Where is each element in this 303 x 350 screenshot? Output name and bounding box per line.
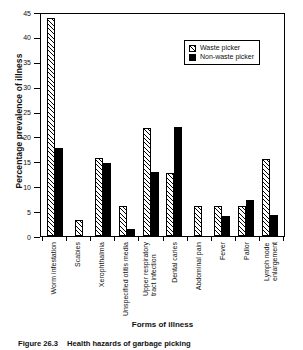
bar-waste-picker	[75, 220, 83, 236]
y-axis-tick-label: 35	[0, 59, 31, 66]
x-axis-title: Forms of illness	[40, 320, 285, 329]
legend-entry-waste-picker: Waste picker	[189, 44, 254, 52]
figure-container: Percentage prevalence of illness Worm in…	[0, 0, 303, 350]
x-tick-label: Fever	[211, 242, 235, 322]
x-axis-tick	[283, 237, 284, 241]
legend-swatch-waste-picker	[189, 45, 196, 52]
bar-non-waste-picker	[151, 172, 159, 236]
bar-non-waste-picker	[222, 216, 230, 236]
bar-group	[139, 14, 163, 236]
y-axis-tick-label: 20	[0, 134, 31, 141]
y-axis-tick	[34, 137, 40, 138]
y-axis-tick-label: 30	[0, 84, 31, 91]
chart-legend: Waste picker Non-waste picker	[184, 40, 260, 65]
x-tick-label: Upper respiratory tract infection	[138, 242, 162, 322]
x-tick-labels: Worm infestationScabiesXerophthalmiaUnsp…	[40, 242, 285, 322]
bar-group	[258, 14, 282, 236]
bar-waste-picker	[143, 128, 151, 237]
legend-swatch-non-waste-picker	[189, 54, 196, 61]
y-axis-tick-label: 15	[0, 159, 31, 166]
x-tick-label: Abdominal pain	[187, 242, 211, 322]
x-axis-tick	[259, 237, 260, 241]
bar-non-waste-picker	[103, 163, 111, 236]
y-axis-title: Percentage prevalence of illness	[14, 11, 24, 231]
bar-non-waste-picker	[270, 215, 278, 236]
bar-waste-picker	[262, 159, 270, 236]
y-axis-tick	[34, 88, 40, 89]
x-axis-tick	[211, 237, 212, 241]
bar-waste-picker	[47, 18, 55, 236]
y-axis-tick	[34, 63, 40, 64]
bar-waste-picker	[119, 206, 127, 236]
bar-non-waste-picker	[174, 127, 182, 236]
y-axis-tick	[34, 237, 40, 238]
y-axis-tick	[34, 38, 40, 39]
x-axis-tick	[235, 237, 236, 241]
x-tick-label: Pallor	[235, 242, 259, 322]
figure-caption-number: Figure 26.3	[18, 339, 58, 348]
y-axis-tick	[34, 187, 40, 188]
x-axis-tick	[187, 237, 188, 241]
y-axis-tick	[34, 162, 40, 163]
bar-non-waste-picker	[127, 229, 135, 236]
y-axis-tick-label: 40	[0, 34, 31, 41]
bar-group	[115, 14, 139, 236]
y-axis-tick	[34, 113, 40, 114]
bar-group	[91, 14, 115, 236]
x-axis-tick	[90, 237, 91, 241]
bar-group	[163, 14, 187, 236]
x-axis-tick	[138, 237, 139, 241]
bar-waste-picker	[238, 206, 246, 236]
y-axis-tick	[34, 13, 40, 14]
y-axis-tick	[34, 212, 40, 213]
y-axis-tick-label: 25	[0, 109, 31, 116]
x-tick-label: Unspecified otitis media	[114, 242, 138, 322]
y-axis-tick-label: 10	[0, 184, 31, 191]
figure-caption: Figure 26.3Health hazards of garbage pic…	[18, 339, 288, 348]
bar-non-waste-picker	[246, 200, 254, 236]
bar-waste-picker	[214, 206, 222, 236]
bar-waste-picker	[95, 158, 103, 236]
bar-waste-picker	[166, 173, 174, 236]
y-axis-tick-label: 0	[0, 234, 31, 241]
figure-caption-text: Health hazards of garbage picking	[67, 339, 191, 348]
x-axis-tick	[114, 237, 115, 241]
x-tick-label: Dental caries	[162, 242, 186, 322]
bar-non-waste-picker	[55, 148, 63, 236]
y-axis-tick-label: 5	[0, 209, 31, 216]
x-tick-label: Xerophthalmia	[90, 242, 114, 322]
x-tick-label: Worm infestation	[42, 242, 66, 322]
x-tick-label: Scabies	[66, 242, 90, 322]
x-tick-label: Lymph node enlargement	[259, 242, 283, 322]
x-axis-tick	[163, 237, 164, 241]
x-axis-tick	[42, 237, 43, 241]
x-axis-tick	[66, 237, 67, 241]
legend-label-waste-picker: Waste picker	[200, 44, 240, 52]
bar-group	[67, 14, 91, 236]
legend-label-non-waste-picker: Non-waste picker	[200, 53, 254, 61]
bar-waste-picker	[194, 206, 202, 236]
legend-entry-non-waste-picker: Non-waste picker	[189, 53, 254, 61]
bar-group	[43, 14, 67, 236]
y-axis-tick-label: 45	[0, 10, 31, 17]
